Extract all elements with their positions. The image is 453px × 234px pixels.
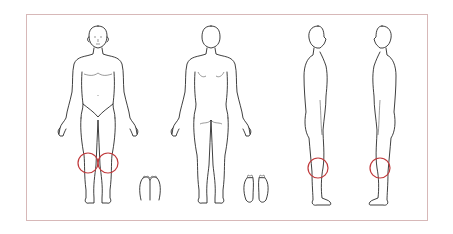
body-chart xyxy=(0,0,453,234)
feet-soles-view xyxy=(244,175,268,202)
marker-left-side-knee xyxy=(370,158,390,178)
marker-front-left-knee xyxy=(98,153,118,173)
front-view-figure xyxy=(58,26,138,203)
marker-front-right-knee xyxy=(78,153,98,173)
feet-top-view xyxy=(140,176,161,200)
left-side-view-figure xyxy=(369,26,396,205)
back-view-figure xyxy=(171,26,251,203)
marker-right-side-knee xyxy=(308,158,328,178)
